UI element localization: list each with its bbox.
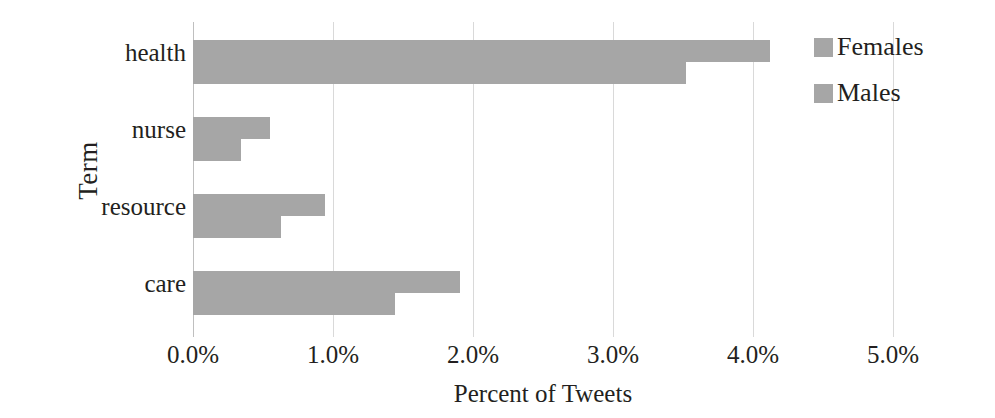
bar-care-males: [193, 293, 395, 315]
legend-swatch-females-icon: [814, 38, 833, 57]
legend: Females Males: [814, 24, 989, 116]
bar-resource-males: [193, 216, 281, 238]
bar-care-females: [193, 271, 460, 293]
x-axis-tick-labels: 0.0% 1.0% 2.0% 3.0% 4.0% 5.0%: [193, 342, 893, 376]
bar-health-males: [193, 62, 686, 84]
bar-health-females: [193, 40, 770, 62]
bar-nurse-males: [193, 139, 241, 161]
y-tick-label-health: health: [26, 40, 186, 65]
bar-chart: Term health nurse resource care: [0, 0, 995, 418]
bar-resource-females: [193, 194, 325, 216]
x-tick-label-1: 1.0%: [273, 342, 393, 367]
legend-swatch-males-icon: [814, 84, 833, 103]
x-tick-label-0: 0.0%: [133, 342, 253, 367]
legend-label-males: Males: [837, 80, 901, 106]
x-tick-label-2: 2.0%: [413, 342, 533, 367]
plot-area: [193, 22, 893, 337]
x-tick-label-4: 4.0%: [693, 342, 813, 367]
gridline-4: [753, 22, 754, 337]
y-tick-label-resource: resource: [26, 194, 186, 219]
x-tick-label-3: 3.0%: [553, 342, 673, 367]
x-axis-title: Percent of Tweets: [193, 380, 893, 408]
legend-item-females: Females: [814, 24, 989, 70]
legend-item-males: Males: [814, 70, 989, 116]
bar-nurse-females: [193, 117, 270, 139]
x-tick-label-5: 5.0%: [833, 342, 953, 367]
legend-label-females: Females: [837, 34, 924, 60]
y-tick-label-care: care: [26, 271, 186, 296]
y-tick-label-nurse: nurse: [26, 117, 186, 142]
